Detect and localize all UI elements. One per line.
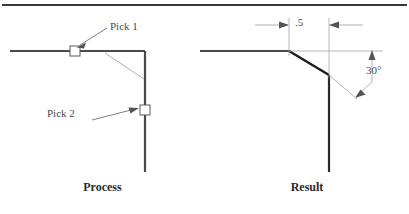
chamfer-preview-line [105, 53, 144, 79]
dimension-arrowhead-right-icon [329, 22, 339, 29]
pick1-leader-line [80, 28, 107, 45]
angle-dimension-label: 30° [366, 64, 381, 76]
result-caption: Result [205, 180, 409, 195]
pick2-label: Pick 2 [47, 107, 75, 119]
chamfer-figure: Pick 1 Pick 2 .5 30° Process Result [0, 0, 409, 214]
process-diagram [10, 28, 150, 172]
pick2-marker[interactable] [140, 105, 150, 115]
chamfer-projection-line [329, 75, 357, 99]
pick1-label: Pick 1 [110, 20, 138, 32]
pick2-leader-line [92, 110, 131, 120]
offset-dimension-label: .5 [295, 16, 303, 28]
angle-arrowhead-up-icon [369, 50, 376, 60]
angle-arrowhead-down-icon [355, 90, 366, 99]
pick2-arrowhead-icon [129, 108, 140, 114]
result-diagram [200, 18, 383, 172]
dimension-arrowhead-left-icon [279, 22, 289, 29]
process-caption: Process [0, 180, 205, 195]
chamfer-face-edge [289, 51, 329, 75]
